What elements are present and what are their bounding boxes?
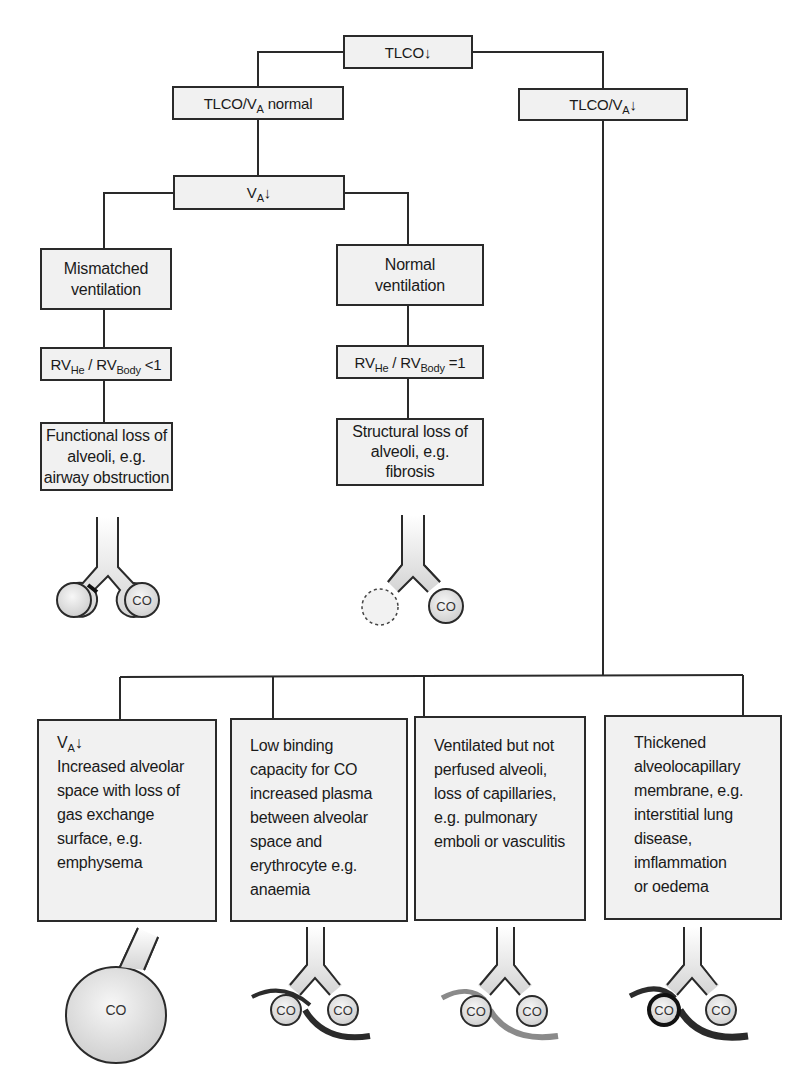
svg-text:CO: CO — [106, 1002, 127, 1018]
svg-text:CO: CO — [711, 1003, 731, 1018]
alveoli-illustrations: CO CO CO — [0, 0, 807, 1084]
anaemia-illustration: CO CO — [252, 927, 370, 1037]
svg-text:CO: CO — [333, 1003, 353, 1018]
svg-text:CO: CO — [466, 1004, 486, 1019]
thickened-membrane-illustration: CO CO — [630, 927, 748, 1037]
svg-text:CO: CO — [654, 1003, 674, 1018]
fibrosis-illustration: CO — [362, 515, 463, 625]
flowchart-canvas: TLCO↓ TLCO/VA normal TLCO/VA↓ VA↓ Mismat… — [0, 0, 807, 1084]
svg-text:CO: CO — [132, 593, 152, 608]
airway-obstruction-illustration: CO — [57, 517, 159, 617]
emboli-illustration: CO CO — [442, 927, 558, 1037]
emphysema-illustration: CO — [66, 928, 166, 1063]
svg-text:CO: CO — [522, 1004, 542, 1019]
svg-text:CO: CO — [276, 1003, 296, 1018]
svg-text:CO: CO — [436, 599, 456, 614]
